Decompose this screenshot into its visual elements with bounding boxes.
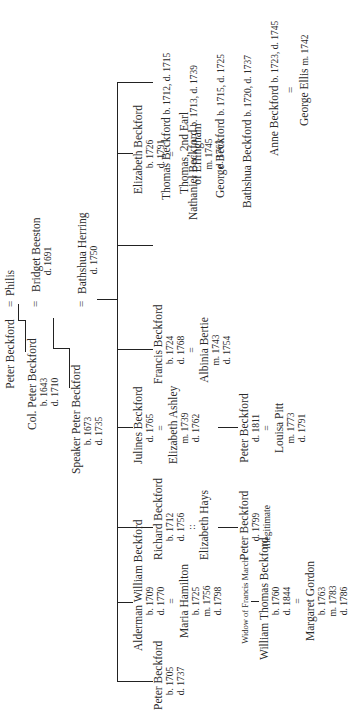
julines-beckford: Julines Beckford d. 1765 = Elizabeth Ash… xyxy=(132,392,202,464)
col-peter-beckford: Col. Peter Beckford b. 1643 d. 1710 xyxy=(26,354,61,430)
descent-line xyxy=(218,527,238,528)
descent-line xyxy=(53,318,54,348)
thomas-beckford: Thomas Beckford b. 1712, d. 1715 xyxy=(160,53,174,200)
child-drop xyxy=(117,427,133,428)
peter-beckford-elder: Peter Beckford xyxy=(4,313,17,395)
elizabeth-beckford: Elizabeth Beckford b. 1726 d. 1791 = Tho… xyxy=(132,114,226,194)
child-drop xyxy=(117,153,133,154)
marriage-sign: = xyxy=(30,298,41,310)
george-ellis: George Ellis m. 1742 xyxy=(298,34,312,126)
speaker-peter-beckford: Speaker Peter Beckford b. 1673 d. 1735 xyxy=(70,388,105,474)
child-drop xyxy=(117,245,153,246)
descent-line xyxy=(53,348,69,349)
descent-line xyxy=(97,299,117,300)
descent-line xyxy=(18,304,19,320)
george-beckford: George Beckford b. 1715, d. 1725 xyxy=(214,54,228,198)
nathaniel-beckford: Nathaniel Beckford b. 1713, d. 1739 xyxy=(187,65,201,220)
child-drop xyxy=(117,602,133,603)
peter-beckford-1705: Peter Beckford b. 1705 d. 1737 xyxy=(152,652,187,710)
bathshua-beckford: Bathshua Beckford b. 1720, d. 1737 xyxy=(241,55,255,208)
anne-beckford: Anne Beckford b. 1723, d. 1745 xyxy=(268,21,282,156)
peter-beckford-1811: Peter Beckford d. 1811 = Louisa Pitt m. … xyxy=(238,392,308,464)
francis-beckford: Francis Beckford b. 1724 d. 1768 = Albin… xyxy=(152,316,233,384)
bathshua-herring: Bathshua Herring d. 1750 xyxy=(76,226,100,294)
child-drop xyxy=(117,681,153,682)
alderman-william-beckford: Alderman William Beckford b. 1709 d. 177… xyxy=(132,551,224,651)
richard-beckford: Richard Beckford b. 1712 d. 1756 :: Eliz… xyxy=(152,494,211,560)
marriage-sign: = xyxy=(285,84,296,96)
child-drop xyxy=(117,82,153,83)
bridget-beeston: Bridget Beeston d. 1691 xyxy=(30,230,54,292)
widow-note: Widow of Francis March xyxy=(240,551,250,651)
marriage-sign: = xyxy=(76,298,87,310)
marriage-sign: = xyxy=(5,298,16,310)
philis: Philis xyxy=(4,267,17,299)
peter-beckford-illegitimate: Peter Beckford d. 1799 Illegitimate xyxy=(238,494,273,560)
descent-line xyxy=(218,427,238,428)
sibling-bar xyxy=(117,82,118,682)
child-drop xyxy=(117,349,153,350)
